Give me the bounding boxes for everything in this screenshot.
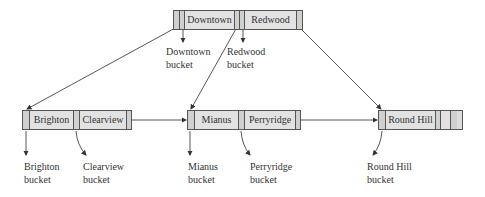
root-node: Downtown Redwood	[173, 10, 303, 30]
leaf3-pointer-0	[379, 111, 386, 129]
leaf1-next-pointer	[127, 111, 131, 129]
root-pointer-2	[297, 11, 302, 29]
leaf3-key-empty	[441, 111, 451, 129]
bucket-label-line2: bucket	[188, 173, 218, 186]
bucket-label-downtown: Downtown bucket	[166, 45, 210, 71]
bucket-label-line1: Brighton	[24, 160, 60, 173]
root-key-redwood: Redwood	[245, 11, 297, 29]
bucket-label-redwood: Redwood bucket	[227, 45, 265, 71]
bucket-label-line2: bucket	[166, 58, 210, 71]
bucket-label-clearview: Clearview bucket	[83, 160, 124, 186]
bucket-label-brighton: Brighton bucket	[24, 160, 60, 186]
bucket-label-line2: bucket	[24, 173, 60, 186]
bucket-label-line1: Round Hill	[367, 160, 412, 173]
bucket-label-perryridge: Perryridge bucket	[250, 160, 292, 186]
leaf1-pointer-0	[23, 111, 30, 129]
leaf3-next-pointer	[451, 111, 457, 129]
leaf2-key-mianus: Mianus	[195, 111, 239, 129]
leaf3-key-round-hill: Round Hill	[386, 111, 436, 129]
bucket-label-line2: bucket	[83, 173, 124, 186]
leaf-node-2: Mianus Perryridge	[187, 110, 301, 130]
leaf-node-1: Brighton Clearview	[22, 110, 132, 130]
leaf2-next-pointer	[296, 111, 300, 129]
bucket-label-line1: Downtown	[166, 45, 210, 58]
bucket-label-round-hill: Round Hill bucket	[367, 160, 412, 186]
bucket-label-line1: Clearview	[83, 160, 124, 173]
bucket-label-line1: Mianus	[188, 160, 218, 173]
bucket-label-line2: bucket	[367, 173, 412, 186]
leaf1-key-clearview: Clearview	[80, 111, 127, 129]
leaf2-key-perryridge: Perryridge	[245, 111, 296, 129]
leaf1-key-brighton: Brighton	[30, 111, 74, 129]
bucket-label-line2: bucket	[250, 173, 292, 186]
root-key-downtown: Downtown	[185, 11, 235, 29]
bucket-label-line1: Redwood	[227, 45, 265, 58]
leaf2-pointer-0	[188, 111, 195, 129]
leaf-node-3: Round Hill	[378, 110, 463, 130]
bucket-label-line1: Perryridge	[250, 160, 292, 173]
bucket-label-line2: bucket	[227, 58, 265, 71]
bucket-label-mianus: Mianus bucket	[188, 160, 218, 186]
